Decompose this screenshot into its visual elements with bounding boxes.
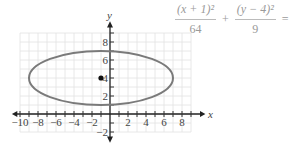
svg-text:−10: −10 (11, 116, 29, 128)
svg-text:6: 6 (161, 116, 167, 128)
coordinate-plane: −10−8−6−4−224688642−2xy (0, 0, 304, 143)
svg-text:6: 6 (103, 54, 109, 66)
svg-text:y: y (106, 9, 112, 21)
svg-text:8: 8 (179, 116, 185, 128)
svg-text:−4: −4 (68, 116, 80, 128)
svg-text:−6: −6 (50, 116, 62, 128)
ellipse-graph-figure: (x + 1)² 64 + (y − 4)² 9 = −10−8−6−4−224… (0, 0, 304, 143)
svg-text:x: x (207, 108, 213, 120)
svg-text:−8: −8 (32, 116, 44, 128)
svg-text:2: 2 (103, 90, 109, 102)
center-point (98, 75, 103, 80)
svg-text:2: 2 (125, 116, 131, 128)
svg-text:4: 4 (143, 116, 149, 128)
svg-text:−2: −2 (96, 126, 108, 138)
svg-text:8: 8 (103, 36, 109, 48)
